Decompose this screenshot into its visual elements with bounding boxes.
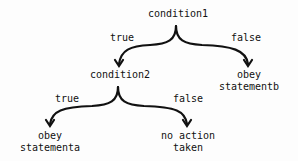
node-condition1: condition1 xyxy=(148,8,208,19)
node-condition2: condition2 xyxy=(90,69,150,80)
node-obey-statementb-line2: statementb xyxy=(219,81,279,92)
node-no-action-line1: no action xyxy=(161,130,215,141)
edge-label-c1-false: false xyxy=(231,32,261,43)
node-obey-statementb-line1: obey xyxy=(237,69,261,80)
edge-label-c2-true: true xyxy=(55,93,79,104)
node-obey-statementa-line2: statementa xyxy=(20,142,80,153)
node-obey-statementa-line1: obey xyxy=(38,130,62,141)
node-no-action-line2: taken xyxy=(173,142,203,153)
edge-label-c2-false: false xyxy=(173,93,203,104)
edge-label-c1-true: true xyxy=(110,32,134,43)
